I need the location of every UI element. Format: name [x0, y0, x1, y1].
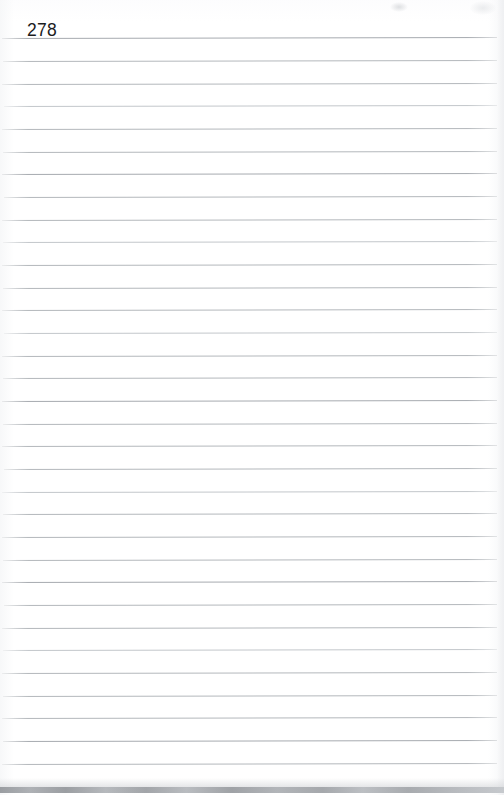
scan-bottom-shadow — [0, 778, 504, 787]
ruled-line — [3, 649, 497, 651]
ruled-line — [2, 763, 497, 765]
scanned-page: 278 — [0, 0, 504, 795]
ruled-line — [3, 740, 497, 742]
ruled-lines-group — [0, 0, 504, 795]
ruled-line — [4, 196, 497, 198]
ruled-line — [2, 672, 497, 674]
ruled-line — [2, 355, 497, 357]
ruled-line — [2, 128, 497, 130]
ruled-line — [2, 309, 497, 311]
page-right-edge — [497, 0, 504, 795]
scan-smudge-icon — [390, 2, 408, 12]
ruled-line — [3, 60, 497, 62]
ruled-line — [4, 332, 497, 334]
ruled-line — [2, 173, 497, 175]
ruled-line — [3, 241, 497, 243]
ruled-line — [3, 695, 497, 697]
scan-bottom-band — [0, 787, 504, 793]
ruled-line — [3, 287, 497, 289]
ruled-line — [2, 400, 497, 402]
ruled-line — [4, 468, 497, 470]
ruled-line — [2, 219, 497, 221]
ruled-line — [3, 559, 497, 561]
ruled-line — [2, 37, 497, 39]
ruled-line — [2, 581, 497, 583]
ruled-line — [3, 513, 497, 515]
page-number: 278 — [27, 20, 57, 40]
ruled-line — [3, 151, 497, 153]
ruled-line — [2, 491, 497, 493]
ruled-line — [2, 717, 497, 719]
ruled-line — [2, 536, 497, 538]
ruled-line — [2, 445, 497, 447]
ruled-line — [2, 83, 497, 85]
ruled-line — [3, 423, 497, 425]
ruled-line — [2, 627, 497, 629]
scan-smudge-secondary-icon — [470, 1, 496, 15]
ruled-line — [3, 377, 497, 379]
ruled-line — [4, 105, 497, 107]
ruled-line — [4, 604, 497, 606]
ruled-line — [2, 264, 497, 266]
